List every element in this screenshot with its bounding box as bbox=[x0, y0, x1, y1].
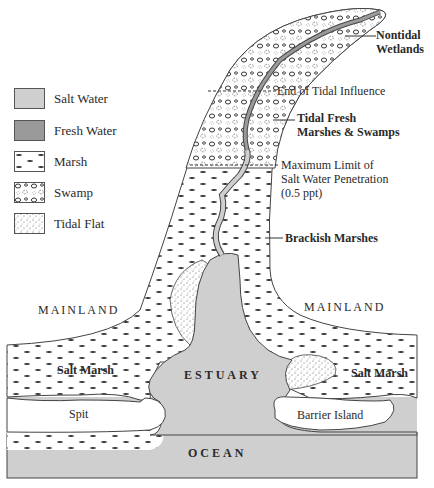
end-tidal-influence-label: End of Tidal Influence bbox=[277, 84, 385, 98]
fresh-water-swatch-icon bbox=[14, 120, 45, 141]
salt-marsh-left-label: Salt Marsh bbox=[57, 363, 114, 377]
label-line: Nontidal bbox=[376, 28, 424, 42]
barrier-island-label: Barrier Island bbox=[297, 408, 363, 422]
salt-marsh-right-label: Salt Marsh bbox=[351, 366, 408, 380]
ocean-label: OCEAN bbox=[188, 446, 246, 460]
tidal-flat-swatch-icon bbox=[14, 213, 45, 234]
label-line: Maximum Limit of bbox=[281, 158, 388, 172]
mainland-right-label: MAINLAND bbox=[304, 300, 385, 314]
marsh-swatch-icon bbox=[14, 151, 45, 172]
nontidal-wetlands-label: Nontidal Wetlands bbox=[376, 28, 424, 56]
legend-label: Tidal Flat bbox=[54, 216, 104, 232]
legend-label: Swamp bbox=[54, 185, 93, 201]
label-line: Tidal Fresh bbox=[297, 111, 400, 125]
brackish-marshes-label: Brackish Marshes bbox=[285, 231, 378, 245]
swamp-swatch-icon bbox=[14, 182, 45, 203]
spit-label: Spit bbox=[69, 407, 88, 421]
label-line: Wetlands bbox=[376, 42, 424, 56]
mainland-left-label: MAINLAND bbox=[38, 303, 119, 317]
estuary-label: ESTUARY bbox=[184, 368, 262, 382]
legend-label: Salt Water bbox=[54, 91, 108, 107]
salt-water-swatch-icon bbox=[14, 88, 45, 109]
legend-label: Fresh Water bbox=[54, 123, 117, 139]
tidal-fresh-marshes-label: Tidal Fresh Marshes & Swamps bbox=[297, 111, 400, 139]
legend-label: Marsh bbox=[54, 154, 87, 170]
label-line: (0.5 ppt) bbox=[281, 186, 388, 200]
label-line: Salt Water Penetration bbox=[281, 172, 388, 186]
label-line: Marshes & Swamps bbox=[297, 125, 400, 139]
max-salt-label: Maximum Limit of Salt Water Penetration … bbox=[281, 158, 388, 200]
